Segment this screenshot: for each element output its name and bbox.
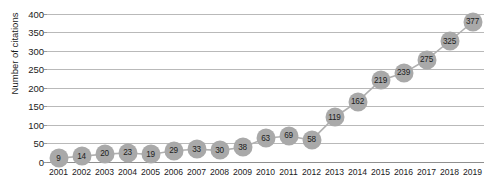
gridline: [47, 51, 484, 52]
data-point-label: 219: [374, 76, 387, 84]
x-tick-label: 2013: [325, 167, 344, 177]
y-tick-mark: [44, 14, 47, 15]
x-tick-label: 2009: [233, 167, 252, 177]
data-point-marker[interactable]: 69: [279, 126, 298, 145]
x-axis-line: [47, 162, 484, 163]
y-tick-label: 300: [28, 45, 44, 56]
data-point-label: 58: [307, 136, 316, 144]
x-tick-label: 2002: [72, 167, 91, 177]
data-point-label: 14: [77, 152, 86, 160]
gridline: [47, 69, 484, 70]
y-tick-label: 400: [28, 8, 44, 19]
y-tick-label: 200: [28, 82, 44, 93]
y-tick-label: 350: [28, 27, 44, 38]
x-tick-label: 2014: [348, 167, 367, 177]
y-tick-mark: [44, 32, 47, 33]
x-tick-label: 2003: [95, 167, 114, 177]
x-tick-label: 2005: [141, 167, 160, 177]
data-point-marker[interactable]: 9: [49, 149, 68, 168]
x-tick-label: 2004: [118, 167, 137, 177]
data-point-marker[interactable]: 33: [187, 140, 206, 159]
x-tick-label: 2001: [49, 167, 68, 177]
y-tick-label: 50: [33, 138, 44, 149]
data-point-marker[interactable]: 219: [371, 71, 390, 90]
y-tick-mark: [44, 106, 47, 107]
data-point-marker[interactable]: 23: [118, 143, 137, 162]
data-point-marker[interactable]: 58: [302, 131, 321, 150]
data-point-marker[interactable]: 239: [394, 64, 413, 83]
y-tick-mark: [44, 69, 47, 70]
gridline: [47, 32, 484, 33]
data-point-marker[interactable]: 377: [463, 13, 482, 32]
data-point-label: 63: [261, 134, 270, 142]
data-point-marker[interactable]: 275: [417, 50, 436, 69]
data-point-marker[interactable]: 38: [233, 138, 252, 157]
x-tick-label: 2006: [164, 167, 183, 177]
x-tick-label: 2015: [371, 167, 390, 177]
data-point-marker[interactable]: 20: [95, 145, 114, 164]
y-axis-ticks: 050100150200250300350400: [0, 0, 44, 193]
citations-line-chart: Number of citations 05010015020025030035…: [0, 0, 491, 193]
data-point-marker[interactable]: 63: [256, 129, 275, 148]
data-point-marker[interactable]: 119: [325, 108, 344, 127]
series-line-path: [0, 0, 491, 193]
data-point-marker[interactable]: 29: [164, 141, 183, 160]
x-tick-label: 2012: [302, 167, 321, 177]
x-tick-label: 2008: [210, 167, 229, 177]
data-point-marker[interactable]: 19: [141, 145, 160, 164]
x-tick-label: 2007: [187, 167, 206, 177]
y-tick-mark: [44, 88, 47, 89]
x-tick-label: 2019: [463, 167, 482, 177]
data-point-label: 19: [146, 150, 155, 158]
data-point-label: 30: [215, 146, 224, 154]
y-tick-mark: [44, 125, 47, 126]
data-point-label: 69: [284, 132, 293, 140]
x-tick-label: 2011: [279, 167, 297, 177]
data-point-label: 119: [328, 113, 340, 121]
data-point-label: 23: [123, 149, 132, 157]
data-point-label: 38: [238, 143, 247, 151]
y-tick-label: 250: [28, 64, 44, 75]
data-point-label: 377: [466, 18, 479, 26]
data-point-marker[interactable]: 30: [210, 141, 229, 160]
y-tick-label: 100: [28, 119, 44, 130]
data-point-label: 20: [100, 150, 109, 158]
x-tick-label: 2016: [394, 167, 413, 177]
y-tick-label: 150: [28, 101, 44, 112]
gridline: [47, 14, 484, 15]
data-point-label: 275: [420, 56, 433, 64]
gridline: [47, 88, 484, 89]
data-point-label: 33: [192, 145, 201, 153]
x-tick-label: 2017: [417, 167, 436, 177]
x-tick-label: 2018: [440, 167, 459, 177]
data-point-label: 239: [397, 69, 410, 77]
data-point-label: 9: [56, 154, 60, 162]
y-tick-mark: [44, 162, 47, 163]
data-point-label: 325: [443, 37, 456, 45]
y-tick-mark: [44, 51, 47, 52]
data-point-marker[interactable]: 325: [440, 32, 459, 51]
data-point-label: 162: [351, 97, 364, 105]
data-point-marker[interactable]: 14: [72, 147, 91, 166]
gridline: [47, 125, 484, 126]
data-point-label: 29: [169, 147, 178, 155]
gridline: [47, 106, 484, 107]
data-point-marker[interactable]: 162: [348, 92, 367, 111]
x-tick-label: 2010: [256, 167, 275, 177]
y-tick-mark: [44, 143, 47, 144]
